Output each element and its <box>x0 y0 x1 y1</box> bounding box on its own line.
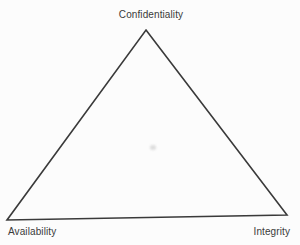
cia-triad-diagram: Confidentiality Availability Integrity <box>0 0 300 245</box>
triangle-figure <box>0 0 300 245</box>
vertex-label-integrity: Integrity <box>254 226 290 238</box>
triangle-outline <box>7 30 287 220</box>
scan-speck-artifact <box>150 145 156 150</box>
vertex-label-confidentiality: Confidentiality <box>119 9 183 21</box>
vertex-label-availability: Availability <box>8 226 56 238</box>
